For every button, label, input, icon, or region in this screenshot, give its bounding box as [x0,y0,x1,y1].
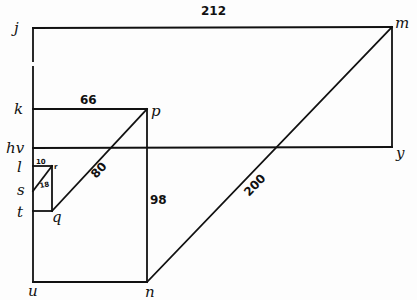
measure-j-m: 212 [201,4,226,18]
label-r: r [54,163,58,171]
label-u: u [28,282,38,300]
measure-p-n: 98 [150,193,167,207]
line-hv-y [33,147,392,148]
geometry-diagram: j m k p hv y l r s t q u n 212 66 98 80 … [0,0,417,300]
measure-k-p: 66 [80,93,97,107]
label-l: l [17,158,22,176]
label-k: k [14,100,23,118]
measure-q-p: 80 [88,159,110,181]
measure-l-r: 10 [36,158,46,166]
label-n: n [145,283,155,300]
label-hv: hv [6,139,25,157]
label-p: p [151,102,161,120]
label-y: y [395,144,405,162]
diagram-canvas: j m k p hv y l r s t q u n 212 66 98 80 … [0,0,417,300]
label-t: t [17,203,24,221]
measure-n-m: 200 [241,171,268,199]
line-n-m [147,27,392,282]
label-q: q [52,208,62,226]
label-m: m [395,14,409,32]
line-j-m [33,27,392,28]
label-s: s [17,181,25,199]
measure-s-r: 18 [39,180,50,190]
label-j: j [11,19,19,37]
